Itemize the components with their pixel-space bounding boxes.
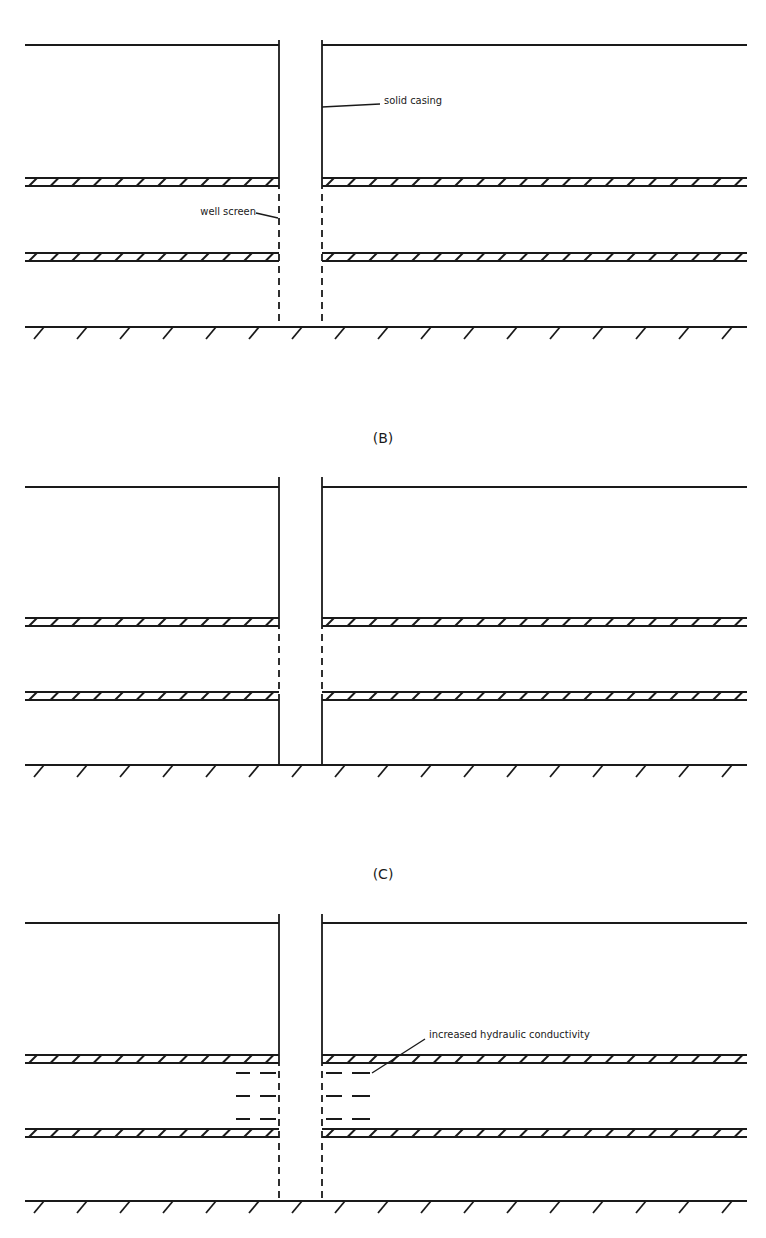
well-construction-diagram: solid casingwell screen (B) (C) increase… [0,0,766,1238]
annotation-label: increased hydraulic conductivity [429,1028,590,1041]
panel-label-c: (C) [373,866,394,882]
ground-base-line [25,327,747,339]
aquitard-layer [25,1129,279,1137]
panel-a: solid casingwell screen [25,40,747,339]
aquitard-layer [322,1055,747,1063]
annotation-label: solid casing [384,94,442,107]
aquitard-layer [322,253,747,261]
increased-conductivity-zone [236,1073,370,1119]
aquitard-layer [322,618,747,626]
ground-base-line [25,765,747,777]
annotation-leader [256,213,278,218]
panel-b [25,477,747,777]
aquitard-layer [322,1129,747,1137]
panel-c: increased hydraulic conductivity [25,914,747,1213]
aquitard-layer [25,253,279,261]
aquitard-layer [25,618,279,626]
aquitard-layer [322,692,747,700]
annotation-label: well screen [200,205,256,218]
aquitard-layer [322,178,747,186]
aquitard-layer [25,178,279,186]
panel-label-b: (B) [373,430,394,446]
aquitard-layer [25,692,279,700]
annotation-leader [322,104,380,107]
aquitard-layer [25,1055,279,1063]
ground-base-line [25,1201,747,1213]
